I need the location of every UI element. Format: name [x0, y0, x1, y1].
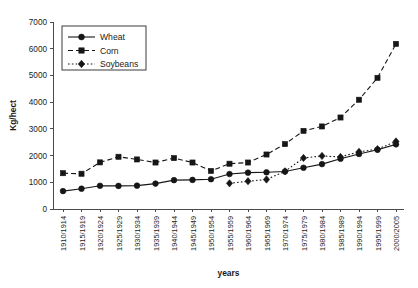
- series-soybeans: [226, 138, 399, 187]
- data-point-diamond: [245, 178, 251, 185]
- chart-legend: WheatCornSoybeans: [62, 26, 146, 70]
- x-tick-label: 2000/2005: [392, 216, 401, 251]
- data-point-square: [264, 152, 269, 157]
- y-tick-label: 0: [42, 205, 47, 214]
- data-point-square: [97, 160, 102, 165]
- legend-label-corn: Corn: [100, 46, 119, 56]
- data-point-circle: [134, 183, 140, 189]
- data-point-square: [393, 41, 398, 46]
- data-point-square: [338, 115, 343, 120]
- x-tick-label: 1970/1974: [281, 216, 290, 251]
- data-point-circle: [79, 34, 85, 40]
- x-tick-label: 1990/1994: [355, 216, 364, 251]
- data-point-diamond: [263, 176, 269, 183]
- x-tick-label: 1940/1944: [170, 216, 179, 251]
- y-axis-title: Kg/hect: [8, 100, 18, 131]
- chart-container: 01000200030004000500060007000Kg/hect1910…: [0, 0, 418, 288]
- data-point-circle: [79, 186, 85, 192]
- x-tick-label: 1920/1924: [96, 216, 105, 251]
- data-point-square: [79, 171, 84, 176]
- data-point-circle: [60, 188, 66, 194]
- data-point-circle: [227, 171, 233, 177]
- x-tick-label: 1985/1989: [337, 216, 346, 251]
- data-point-circle: [264, 169, 270, 175]
- data-point-square: [79, 48, 84, 53]
- data-point-circle: [319, 161, 325, 167]
- y-tick-label: 7000: [29, 18, 48, 27]
- data-point-circle: [245, 170, 251, 176]
- data-point-square: [227, 161, 232, 166]
- data-point-square: [356, 97, 361, 102]
- data-point-square: [171, 156, 176, 161]
- y-tick-label: 1000: [29, 178, 48, 187]
- data-point-square: [245, 160, 250, 165]
- data-point-square: [208, 168, 213, 173]
- x-tick-label: 1945/1949: [189, 216, 198, 251]
- data-point-square: [190, 160, 195, 165]
- x-tick-label: 1960/1964: [244, 216, 253, 251]
- data-point-circle: [208, 176, 214, 182]
- y-tick-label: 6000: [29, 45, 48, 54]
- data-point-diamond: [319, 152, 325, 159]
- data-point-square: [116, 154, 121, 159]
- x-tick-label: 1980/1984: [318, 216, 327, 251]
- data-point-square: [282, 142, 287, 147]
- data-point-diamond: [300, 154, 306, 161]
- x-axis-title: years: [218, 268, 240, 278]
- x-tick-label: 1965/1969: [263, 216, 272, 251]
- data-point-circle: [97, 183, 103, 189]
- x-tick-label: 1910/1914: [59, 216, 68, 251]
- y-tick-label: 3000: [29, 125, 48, 134]
- x-tick-label: 1935/1939: [152, 216, 161, 251]
- data-point-circle: [116, 183, 122, 189]
- data-point-circle: [301, 165, 307, 171]
- data-point-square: [134, 157, 139, 162]
- data-point-square: [153, 160, 158, 165]
- data-point-circle: [190, 177, 196, 183]
- data-point-circle: [171, 177, 177, 183]
- y-tick-label: 2000: [29, 152, 48, 161]
- data-point-diamond: [282, 168, 288, 175]
- x-tick-label: 1930/1934: [133, 216, 142, 251]
- x-tick-label: 1975/1979: [300, 216, 309, 251]
- data-point-square: [319, 124, 324, 129]
- x-tick-label: 1995/1999: [374, 216, 383, 251]
- x-tick-label: 1915/1919: [78, 216, 87, 251]
- legend-label-soybeans: Soybeans: [100, 59, 138, 69]
- x-tick-label: 1955/1959: [226, 216, 235, 251]
- data-point-square: [375, 75, 380, 80]
- line-chart: 01000200030004000500060007000Kg/hect1910…: [0, 0, 418, 288]
- data-point-diamond: [226, 180, 232, 187]
- data-point-square: [60, 171, 65, 176]
- series-line-soybeans: [230, 141, 397, 183]
- x-tick-label: 1950/1954: [207, 216, 216, 251]
- y-tick-label: 4000: [29, 98, 48, 107]
- legend-label-wheat: Wheat: [100, 32, 125, 42]
- data-point-circle: [153, 181, 159, 187]
- y-tick-label: 5000: [29, 71, 48, 80]
- x-tick-label: 1925/1929: [115, 216, 124, 251]
- data-point-square: [301, 128, 306, 133]
